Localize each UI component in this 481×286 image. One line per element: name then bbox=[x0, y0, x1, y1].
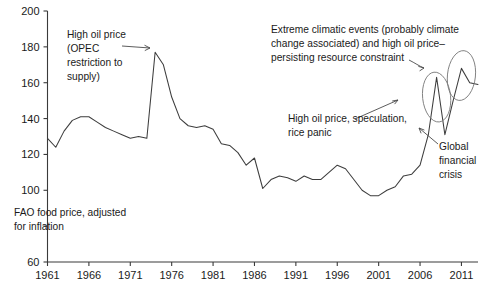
price-line-series bbox=[48, 52, 479, 195]
annotation-opec: High oil price (OPEC restriction to supp… bbox=[67, 29, 126, 82]
opec-leader bbox=[122, 45, 150, 50]
x-tick-label: 2006 bbox=[408, 269, 432, 281]
x-tick-label: 1991 bbox=[284, 269, 308, 281]
x-tick-label: 1961 bbox=[35, 269, 59, 281]
climate-line-2: change associated) and high oil price– bbox=[271, 38, 445, 49]
y-tick-label: 60 bbox=[27, 256, 39, 268]
x-axis-ticks: 1961196619711976198119861991199620012006… bbox=[35, 262, 473, 281]
annotation-gfc: Global financial crisis bbox=[439, 141, 476, 180]
climate-line-1: Extreme climatic events (probably climat… bbox=[271, 24, 459, 35]
annotation-climate: Extreme climatic events (probably climat… bbox=[271, 24, 459, 63]
y-tick-label: 160 bbox=[21, 77, 39, 89]
gfc-line-1: Global bbox=[439, 141, 468, 152]
x-tick-label: 1981 bbox=[201, 269, 225, 281]
speculation-line-1: High oil price, speculation, bbox=[288, 113, 407, 124]
x-tick-label: 1976 bbox=[159, 269, 183, 281]
x-tick-label: 1971 bbox=[118, 269, 142, 281]
y-tick-label: 180 bbox=[21, 41, 39, 53]
ellipse-2011-spike bbox=[445, 49, 478, 102]
x-tick-label: 2011 bbox=[450, 269, 474, 281]
x-tick-label: 1986 bbox=[242, 269, 266, 281]
y-tick-label: 140 bbox=[21, 113, 39, 125]
annotation-axis-caption: FAO food price, adjusted for inflation bbox=[14, 207, 126, 232]
axis-caption-line-2: for inflation bbox=[14, 221, 64, 232]
speculation-line-2: rice panic bbox=[288, 127, 332, 138]
x-tick-label: 2001 bbox=[366, 269, 390, 281]
climate-leader bbox=[409, 60, 424, 71]
annotation-speculation: High oil price, speculation, rice panic bbox=[288, 113, 407, 138]
climate-line-3: persisting resource constraint bbox=[271, 52, 404, 63]
opec-line-2: (OPEC bbox=[67, 43, 99, 54]
y-tick-label: 120 bbox=[21, 148, 39, 160]
opec-line-4: supply) bbox=[67, 71, 100, 82]
highlight-ellipses bbox=[420, 49, 478, 123]
series-group bbox=[48, 52, 479, 195]
opec-line-3: restriction to bbox=[67, 57, 123, 68]
y-tick-label: 200 bbox=[21, 5, 39, 17]
gfc-line-2: financial bbox=[439, 155, 476, 166]
gfc-line-3: crisis bbox=[439, 169, 462, 180]
x-tick-label: 1966 bbox=[77, 269, 101, 281]
axis-caption-line-1: FAO food price, adjusted bbox=[14, 207, 126, 218]
y-tick-label: 100 bbox=[21, 184, 39, 196]
opec-line-1: High oil price bbox=[67, 29, 126, 40]
x-tick-label: 1996 bbox=[325, 269, 349, 281]
chart-canvas: 60100120140160180200 1961196619711976198… bbox=[0, 0, 481, 286]
fao-food-price-chart: 60100120140160180200 1961196619711976198… bbox=[0, 0, 481, 286]
